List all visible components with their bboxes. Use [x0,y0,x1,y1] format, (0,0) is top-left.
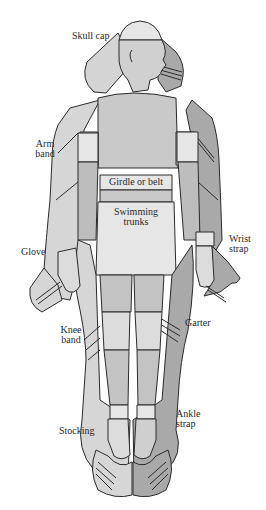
label-girdle-belt: Girdle or belt [100,177,172,187]
label-swimming-trunks-line2: trunks [100,217,172,227]
label-garter: Garter [185,318,211,328]
right-arm-band [177,132,198,162]
right-lower-leg [137,350,160,405]
label-wrist-strap: Wrist strap [229,234,251,254]
body-coverings-diagram: Skull cap Arm band Girdle or belt Swimmi… [0,0,266,510]
skull-cap [119,21,162,40]
waist-band [100,190,172,202]
left-knee [102,312,130,350]
torso [98,93,178,168]
label-arm-band: Arm band [34,139,56,159]
label-arm-band-line2: band [34,149,56,159]
label-wrist-strap-line2: strap [229,244,251,254]
label-ankle-strap-line2: strap [176,419,200,429]
label-knee-band: Knee band [59,325,83,345]
head [119,40,166,92]
right-forearm [178,162,200,240]
right-wrist-strap [196,232,214,246]
label-stocking: Stocking [59,426,95,436]
left-arm-band [78,133,98,162]
right-thigh [134,275,164,312]
left-thigh [100,275,132,312]
label-knee-band-line2: band [59,335,83,345]
left-forearm [78,162,98,240]
right-ankle-strap [137,405,155,419]
left-ankle-band [110,405,128,419]
label-swimming-trunks: Swimming trunks [100,207,172,227]
label-glove: Glove [21,247,45,257]
label-ankle-strap: Ankle strap [176,409,200,429]
label-skull-cap: Skull cap [72,31,110,41]
right-knee [135,312,162,350]
left-lower-leg [104,350,129,405]
leg-gap [132,312,134,400]
